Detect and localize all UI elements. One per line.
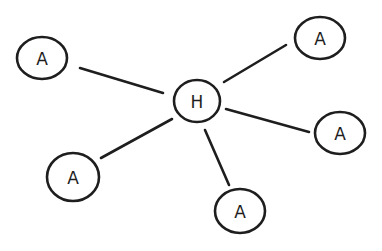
node-a3: A	[315, 112, 365, 154]
node-a1: A	[17, 37, 67, 79]
hub-node: H	[174, 80, 220, 122]
edge-hub-a3	[226, 109, 309, 132]
node-label: A	[36, 49, 48, 69]
hub-label: H	[191, 92, 204, 112]
edge-hub-a1	[80, 68, 163, 93]
node-label: A	[67, 168, 79, 188]
node-a5: A	[215, 189, 265, 233]
edge-hub-a5	[205, 130, 229, 185]
edge-hub-a2	[224, 45, 286, 82]
hub-spoke-diagram: H A A A A A	[0, 0, 382, 251]
node-a2: A	[295, 17, 345, 59]
node-label: A	[334, 124, 346, 144]
edge-hub-a4	[101, 119, 172, 158]
node-a4: A	[47, 153, 99, 201]
node-label: A	[234, 202, 246, 222]
node-label: A	[314, 29, 326, 49]
